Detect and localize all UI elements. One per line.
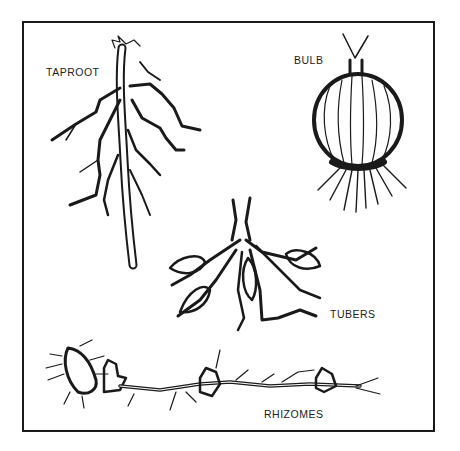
label-rhizomes: RHIZOMES [264,408,323,420]
bulb-drawing [314,34,406,212]
label-bulb: BULB [294,54,323,66]
label-tubers: TUBERS [330,308,376,320]
rhizomes-drawing [46,340,380,410]
label-taproot: TAPROOT [46,66,99,78]
tubers-drawing [170,198,320,330]
